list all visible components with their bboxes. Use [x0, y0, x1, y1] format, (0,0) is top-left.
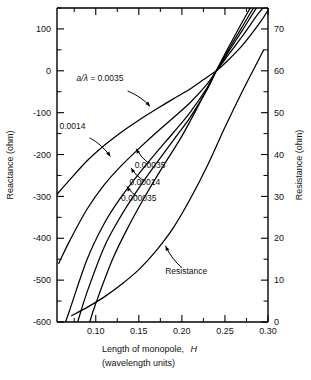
y-tick-label-right: 50: [274, 108, 284, 118]
label-0-0014: 0.0014: [60, 121, 86, 131]
y-tick-label-left: -300: [33, 192, 51, 202]
label-0-00014: 0.00014: [129, 177, 160, 187]
annotation-value: 0.0014: [60, 121, 86, 131]
x-tick-label: 0.10: [87, 326, 105, 336]
figure-container: 0.100.150.200.250.301000-100-200-300-400…: [0, 0, 311, 380]
y-tick-label-right: 60: [274, 66, 284, 76]
label-a-lambda: a/λ = 0.0035: [77, 73, 124, 83]
x-tick-label: 0.15: [130, 326, 148, 336]
y-tick-label-left: -100: [33, 108, 51, 118]
y-tick-label-right: 10: [274, 275, 284, 285]
annotation-value: Resistance: [165, 266, 207, 276]
x-tick-label: 0.20: [173, 326, 191, 336]
y-tick-label-left: -200: [33, 150, 51, 160]
y-axis-title-left: Reactance (ohm): [5, 130, 15, 199]
label-0-00035: 0.00035: [135, 160, 166, 170]
x-tick-label: 0.30: [259, 326, 277, 336]
x-tick-label: 0.25: [216, 326, 234, 336]
y-tick-label-left: -500: [33, 275, 51, 285]
annotation-value: 0.000035: [121, 193, 157, 203]
y-tick-label-left: 0: [46, 66, 51, 76]
x-axis-title-symbol: H: [191, 344, 198, 354]
y-tick-label-left: -600: [33, 317, 51, 327]
label-0-000035: 0.000035: [121, 193, 157, 203]
y-tick-label-left: 100: [36, 24, 51, 34]
x-axis-title-line1: Length of monopole, H: [102, 344, 198, 354]
y-tick-label-right: 20: [274, 233, 284, 243]
y-tick-label-right: 40: [274, 150, 284, 160]
y-tick-label-right: 30: [274, 192, 284, 202]
annotation-value: 0.0035: [98, 73, 124, 83]
annotation-value: 0.00035: [135, 160, 166, 170]
reactance-resistance-chart: 0.100.150.200.250.301000-100-200-300-400…: [0, 0, 311, 380]
annotation-symbol: a/λ =: [77, 73, 98, 83]
y-axis-title-right: Resistance (ohm): [294, 130, 304, 201]
y-tick-label-left: -400: [33, 233, 51, 243]
y-tick-label-right: 0: [274, 317, 279, 327]
x-axis-title-line2: (wavelength units): [102, 358, 175, 368]
y-tick-label-right: 70: [274, 24, 284, 34]
label-resistance: Resistance: [165, 266, 207, 276]
annotation-value: 0.00014: [129, 177, 160, 187]
x-axis-title-text: Length of monopole,: [102, 344, 184, 354]
